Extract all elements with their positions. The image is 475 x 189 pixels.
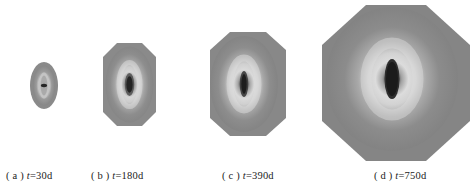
panel-a xyxy=(30,62,58,109)
caption-a-time-value: =30d xyxy=(30,170,52,181)
panel-c xyxy=(210,32,286,136)
blob-image-d xyxy=(322,5,470,161)
panel-b xyxy=(103,43,156,126)
blob-image-b xyxy=(103,43,156,126)
caption-b-close: ) xyxy=(103,170,112,181)
blob-image-a xyxy=(30,62,58,109)
caption-d-close: ) xyxy=(386,170,395,181)
caption-b-time-value: =180d xyxy=(115,170,143,181)
caption-c-close: ) xyxy=(233,170,242,181)
caption-d-time-value: =750d xyxy=(398,170,426,181)
caption-panel-d: ( d ) t=750d xyxy=(374,168,426,184)
panel-d xyxy=(322,5,470,161)
caption-panel-b: ( b ) t=180d xyxy=(91,168,143,184)
blob-image-c xyxy=(210,32,286,136)
caption-panel-c: ( c ) t=390d xyxy=(222,168,274,184)
caption-a-close: ) xyxy=(17,170,26,181)
caption-c-time-value: =390d xyxy=(246,170,274,181)
figure-container: ( a ) t=30d ( b ) t=180d ( c ) t=390d ( … xyxy=(0,0,475,189)
caption-panel-a: ( a ) t=30d xyxy=(6,168,52,184)
